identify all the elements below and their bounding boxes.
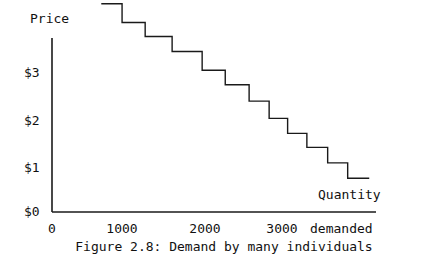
x-axis-title: Quantity [318,188,381,201]
y-tick-label-1: $1 [24,161,40,174]
x-tick-label-1000: 1000 [96,222,148,235]
axis-lines [52,38,376,212]
x-axis-title-line2: demanded [310,222,373,235]
figure-container: $0 $1 $2 $3 0 1000 2000 3000 Price Quant… [0,0,448,268]
x-tick-label-0: 0 [44,222,60,235]
x-tick-label-3000: 3000 [256,222,308,235]
x-tick-label-2000: 2000 [179,222,231,235]
y-tick-label-3: $3 [24,66,40,79]
figure-caption: Figure 2.8: Demand by many individuals [0,240,448,254]
y-axis-title: Price [30,12,69,25]
demand-step-curve [101,4,369,179]
y-tick-label-0: $0 [24,205,40,218]
y-tick-label-2: $2 [24,114,40,127]
